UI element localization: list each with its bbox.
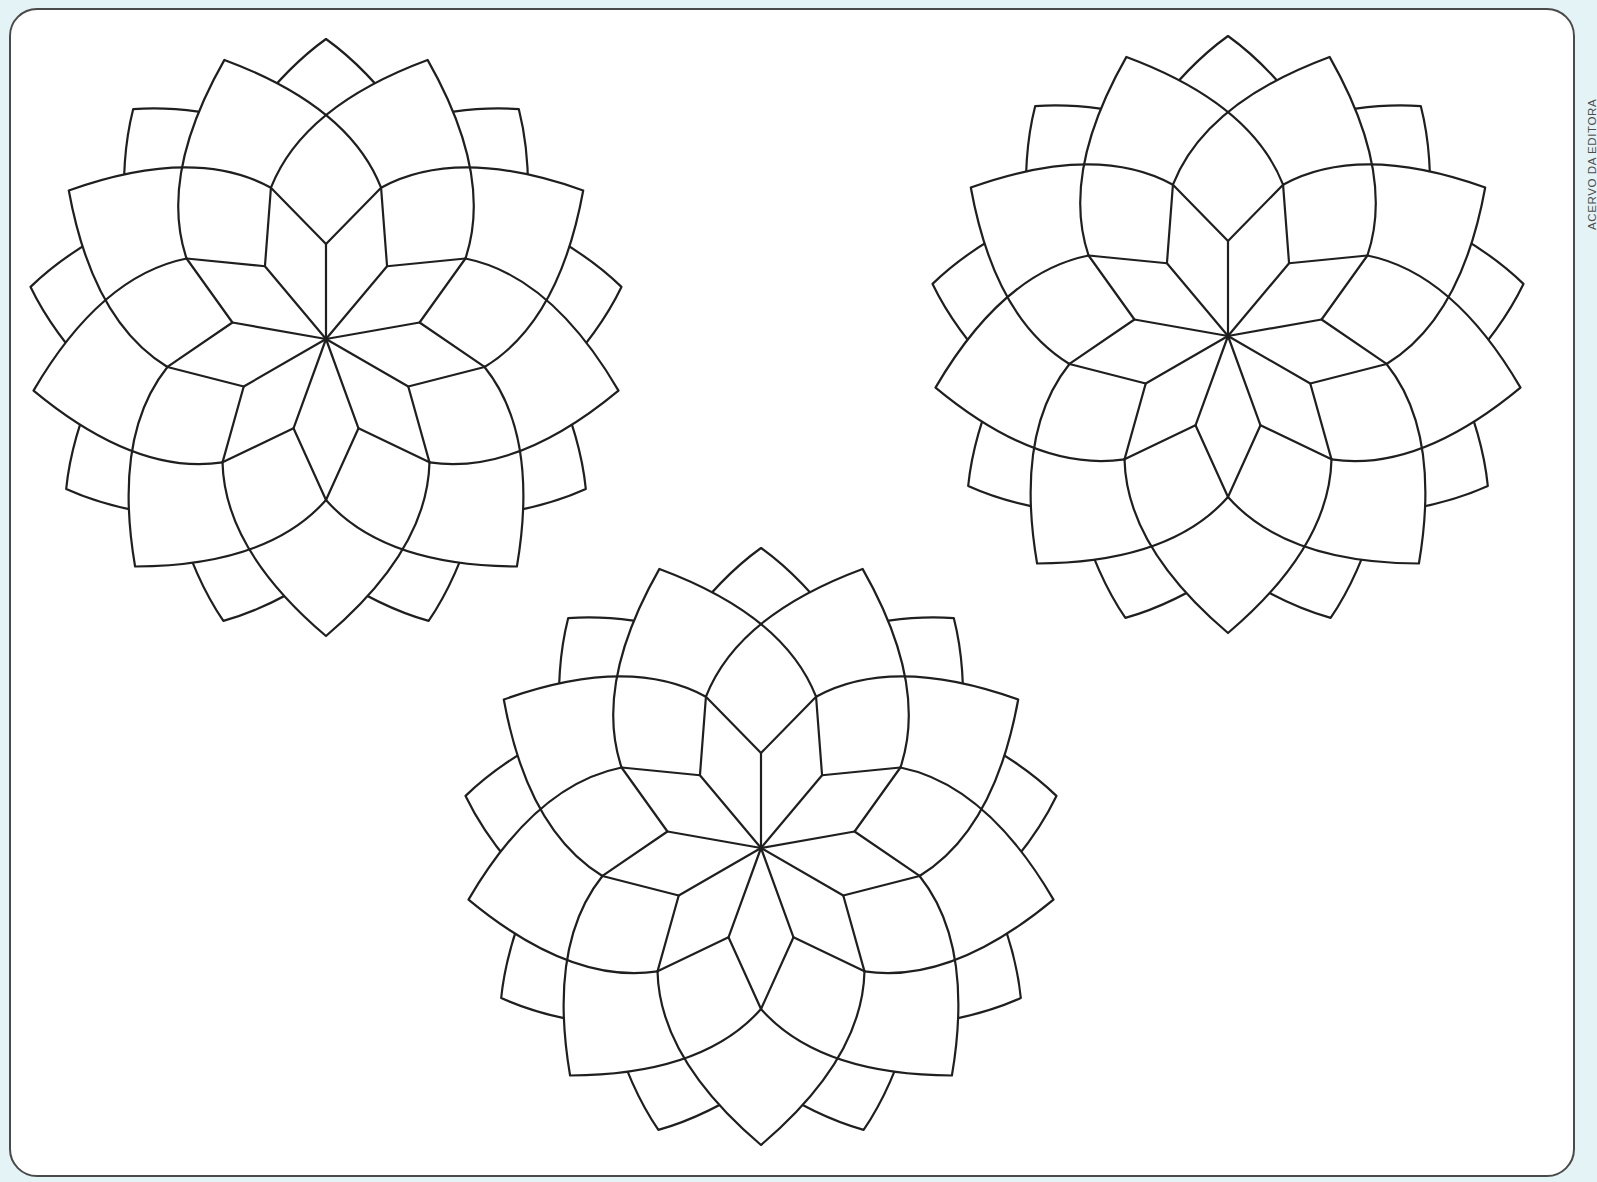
mandala-bottom-center	[466, 548, 1057, 1145]
big-petal-fills	[936, 57, 1521, 633]
mandala-top-right	[933, 36, 1524, 633]
big-petal-fills	[469, 569, 1054, 1145]
big-petal-fills	[34, 60, 619, 636]
mandala-group	[31, 36, 1524, 1145]
image-credit-label: ACERVO DA EDITORA	[1586, 99, 1597, 230]
mandala-top-left	[31, 39, 622, 636]
coloring-artwork	[0, 0, 1597, 1182]
